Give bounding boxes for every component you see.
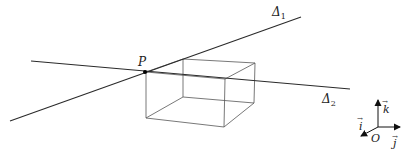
cuboid-edge — [254, 63, 255, 103]
i-vector-arrow: → — [357, 115, 363, 123]
cuboid-edge — [183, 97, 254, 103]
cuboid-edge — [224, 79, 225, 127]
k-vector-arrow: → — [382, 98, 388, 106]
line-delta-2 — [31, 61, 350, 89]
cuboid-edge — [225, 63, 255, 79]
cuboid-edge — [146, 118, 224, 127]
cuboid — [146, 59, 255, 127]
line-delta-2-label: Δ2 — [321, 92, 336, 108]
point-p — [143, 70, 147, 74]
cuboid-edge — [183, 59, 255, 63]
point-p-label: P — [137, 55, 147, 69]
cuboid-edge — [146, 72, 225, 79]
cuboid-edge — [224, 103, 254, 127]
diagram-canvas: P Δ1 Δ2 O k → j → i → — [0, 0, 407, 156]
line-delta-1-label: Δ1 — [271, 5, 286, 21]
axis-frame — [361, 100, 400, 136]
cuboid-edge — [146, 97, 183, 118]
origin-label: O — [371, 132, 380, 145]
j-vector-arrow: → — [392, 133, 398, 141]
line-delta-1 — [10, 17, 301, 121]
